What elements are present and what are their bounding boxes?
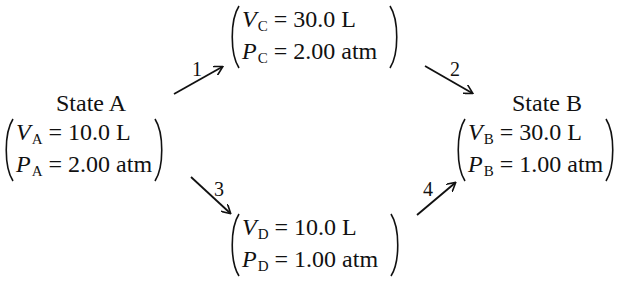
left-paren-icon (454, 117, 466, 183)
state-b-pressure: PB = 1.00 atm (468, 150, 603, 182)
arrow-2-icon (425, 66, 472, 93)
state-a-vector: VA = 10.0 L PA = 2.00 atm (2, 117, 166, 183)
state-c-volume: VC = 30.0 L (242, 5, 377, 37)
state-b-title: State B (512, 90, 582, 117)
state-b-vector: VB = 30.0 L PB = 1.00 atm (454, 117, 617, 183)
state-a-volume: VA = 10.0 L (16, 118, 152, 150)
state-d-vector: VD = 10.0 L PD = 1.00 atm (228, 212, 402, 278)
state-d-pressure: PD = 1.00 atm (242, 245, 378, 277)
right-paren-icon (154, 117, 166, 183)
state-c-vector: VC = 30.0 L PC = 2.00 atm (228, 4, 401, 70)
state-b-volume: VB = 30.0 L (468, 118, 603, 150)
right-paren-icon (605, 117, 617, 183)
left-paren-icon (228, 4, 240, 70)
arrow-3-icon (191, 177, 230, 213)
arrow-3-label: 3 (214, 178, 224, 201)
right-paren-icon (390, 212, 402, 278)
right-paren-icon (389, 4, 401, 70)
state-a-pressure: PA = 2.00 atm (16, 150, 152, 182)
arrow-1-label: 1 (192, 58, 202, 81)
state-a-title: State A (56, 90, 126, 117)
state-c-pressure: PC = 2.00 atm (242, 37, 377, 69)
state-d-volume: VD = 10.0 L (242, 213, 378, 245)
arrow-2-label: 2 (450, 58, 460, 81)
arrow-4-label: 4 (423, 178, 433, 201)
left-paren-icon (2, 117, 14, 183)
left-paren-icon (228, 212, 240, 278)
